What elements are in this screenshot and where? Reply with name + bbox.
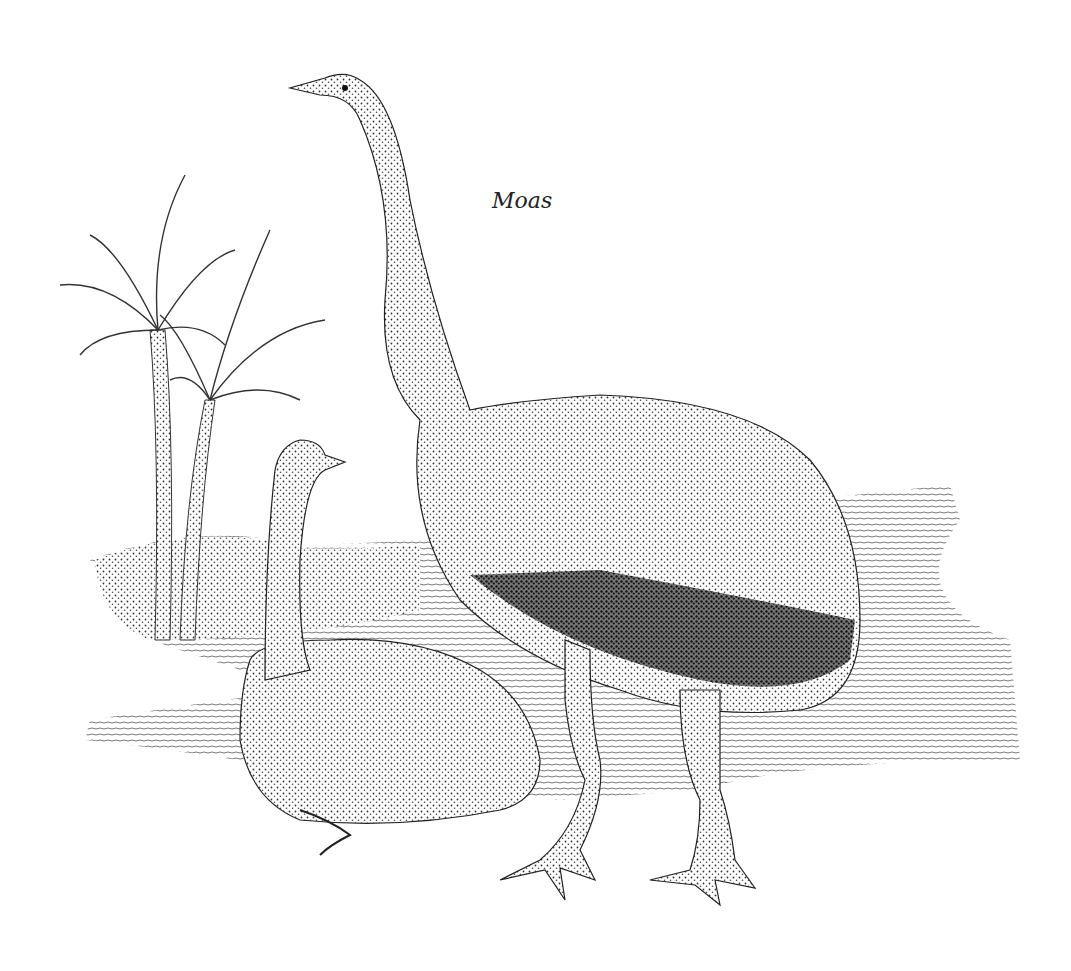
caption: Moas bbox=[492, 188, 552, 213]
moa-illustration bbox=[0, 0, 1071, 971]
